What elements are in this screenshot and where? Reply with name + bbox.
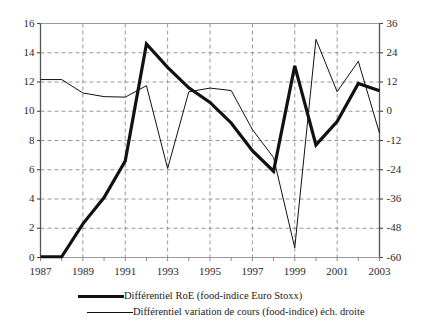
x-axis-tick-label: 2003 [360,266,400,277]
y-axis-left-tick-label: 8 [29,135,35,146]
chart-legend: Différentiel RoE (food-indice Euro Stoxx… [78,288,378,320]
legend-swatch-thin-line [87,312,133,313]
legend-item-label: Différentiel variation de cours (food-in… [133,307,365,318]
y-axis-left-tick-label: 4 [29,193,35,204]
y-axis-right-tick-label: 36 [387,18,398,29]
x-axis-tick-label: 2001 [317,266,357,277]
y-axis-left-tick-label: 10 [24,105,35,116]
x-axis-tick-label: 1997 [232,266,272,277]
chart-plot-area [0,0,431,332]
x-axis-tick-label: 1999 [275,266,315,277]
y-axis-right-tick-label: -24 [387,164,402,175]
y-axis-left-tick-label: 2 [29,222,35,233]
y-axis-left-tick-label: 14 [24,47,35,58]
y-axis-left-tick-label: 6 [29,164,35,175]
y-axis-right-tick-label: -36 [387,193,402,204]
x-axis-tick-label: 1993 [148,266,188,277]
y-axis-left-tick-label: 12 [24,76,35,87]
legend-item: Différentiel RoE (food-indice Euro Stoxx… [78,288,378,304]
y-axis-left-tick-label: 16 [24,18,35,29]
y-axis-left-tick-label: 0 [29,252,35,263]
x-axis-tick-label: 1989 [63,266,103,277]
legend-swatch-thick-line [78,295,124,298]
data-series-layer [41,39,380,256]
y-axis-right-tick-label: -48 [387,222,402,233]
y-axis-right-tick-label: 0 [387,105,393,116]
x-axis-tick-label: 1991 [105,266,145,277]
legend-item-label: Différentiel RoE (food-indice Euro Stoxx… [124,291,302,302]
y-axis-right-tick-label: 24 [387,47,398,58]
x-axis-tick-label: 1995 [190,266,230,277]
legend-item: Différentiel variation de cours (food-in… [78,304,378,320]
y-axis-right-tick-label: -12 [387,135,402,146]
chart-figure: 0246810121416 -60-48-36-24-120122436 198… [0,0,431,332]
gridlines [41,24,380,258]
x-axis-tick-label: 1987 [21,266,61,277]
y-axis-right-tick-label: 12 [387,76,398,87]
y-axis-right-tick-label: -60 [387,252,402,263]
